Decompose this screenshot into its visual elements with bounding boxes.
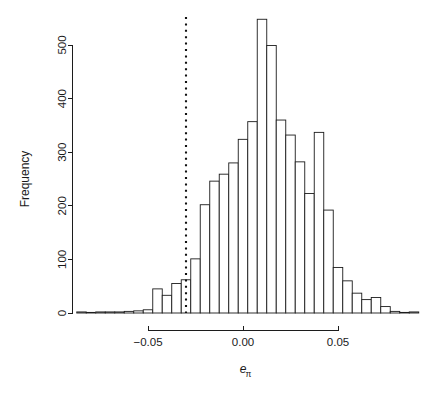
histogram-bar: [96, 312, 106, 313]
x-axis-tick-label: 0.05: [327, 336, 349, 348]
histogram-bar: [219, 174, 229, 313]
histogram-bar: [105, 312, 115, 313]
x-axis-title: eπ: [240, 362, 252, 379]
histogram-bar: [229, 163, 239, 313]
histogram-bar: [210, 181, 220, 313]
histogram-bar: [409, 312, 419, 313]
histogram-bar: [172, 284, 182, 313]
histogram-bar: [371, 297, 381, 313]
histogram-bar: [115, 312, 125, 313]
histogram-bar: [276, 120, 286, 313]
histogram-bar: [352, 293, 362, 313]
histogram-bar: [286, 135, 296, 313]
plot-canvas: 0100200300400500 −0.050.000.05 Frequency…: [0, 0, 423, 394]
histogram-bar: [305, 193, 315, 313]
y-axis-tick-label: 400: [56, 89, 68, 108]
histogram-bar: [362, 300, 372, 313]
y-axis-title-text: Frequency: [18, 151, 32, 208]
x-axis-title-subscript: π: [246, 369, 252, 379]
y-axis-tick-label: 0: [56, 310, 68, 316]
y-axis-tick-label: 100: [56, 250, 68, 269]
histogram-bar: [134, 311, 144, 313]
histogram-bars: [77, 19, 419, 313]
histogram-bar: [333, 267, 343, 313]
x-axis-tick-label: 0.00: [232, 336, 254, 348]
histogram-bar: [400, 312, 410, 313]
histogram-bar: [77, 312, 87, 313]
histogram-bar: [162, 295, 172, 313]
y-axis-tick-labels: 0100200300400500: [56, 35, 68, 316]
histogram-bar: [191, 259, 201, 313]
y-axis-tick-label: 300: [56, 143, 68, 162]
histogram-bar: [390, 311, 400, 313]
y-axis: [68, 45, 73, 313]
x-axis-tick-label: −0.05: [133, 336, 162, 348]
histogram-bar: [181, 280, 191, 313]
histogram-bar: [238, 139, 248, 313]
histogram-bar: [314, 132, 324, 313]
histogram-bar: [324, 210, 334, 313]
histogram-bar: [153, 289, 163, 313]
histogram-bar: [143, 310, 153, 313]
x-axis-tick-labels: −0.050.000.05: [133, 336, 349, 348]
histogram-bar: [200, 205, 210, 313]
histogram-bar: [86, 312, 96, 313]
y-axis-tick-label: 200: [56, 196, 68, 215]
histogram-bar: [248, 122, 258, 313]
histogram-bar: [267, 46, 277, 313]
histogram-bar: [343, 281, 353, 313]
x-axis: [148, 326, 338, 331]
y-axis-tick-label: 500: [56, 35, 68, 54]
histogram-bar: [124, 311, 134, 313]
histogram-bar: [295, 162, 305, 313]
y-axis-title: Frequency: [18, 151, 32, 208]
histogram-figure: 0100200300400500 −0.050.000.05 Frequency…: [0, 0, 423, 394]
histogram-bar: [381, 307, 391, 313]
histogram-bar: [257, 19, 267, 313]
